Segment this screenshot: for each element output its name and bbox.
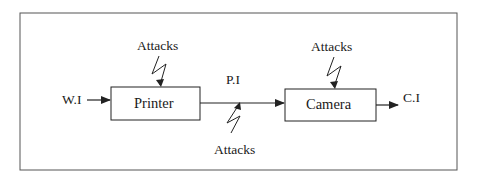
attacks-label-printer: Attacks — [137, 39, 178, 53]
lightning-attack-link-icon — [227, 106, 240, 133]
camera-label: Camera — [306, 97, 351, 112]
output-signal-label: C.I — [403, 91, 420, 105]
printer-label: Printer — [134, 96, 173, 111]
attacks-label-camera: Attacks — [311, 40, 352, 54]
intermediate-signal-label: P.I — [226, 73, 240, 87]
input-signal-label: W.I — [62, 93, 81, 107]
attacks-label-link: Attacks — [214, 143, 255, 157]
diagram-canvas: W.I Printer P.I Camera C.I Attacks Attac… — [0, 0, 477, 184]
